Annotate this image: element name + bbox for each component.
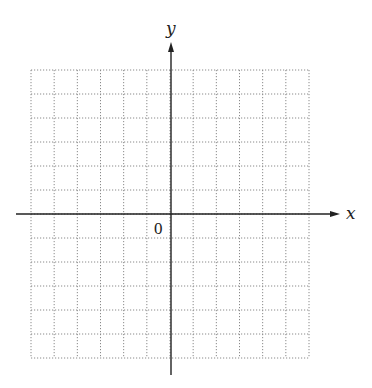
y-axis-arrow-icon [168, 42, 174, 52]
y-axis-label: y [165, 18, 176, 38]
origin-label: 0 [154, 219, 163, 238]
x-axis-arrow-icon [330, 211, 340, 217]
axes [16, 42, 340, 375]
x-axis-label: x [346, 203, 356, 223]
coordinate-plane: x y 0 [0, 0, 372, 388]
